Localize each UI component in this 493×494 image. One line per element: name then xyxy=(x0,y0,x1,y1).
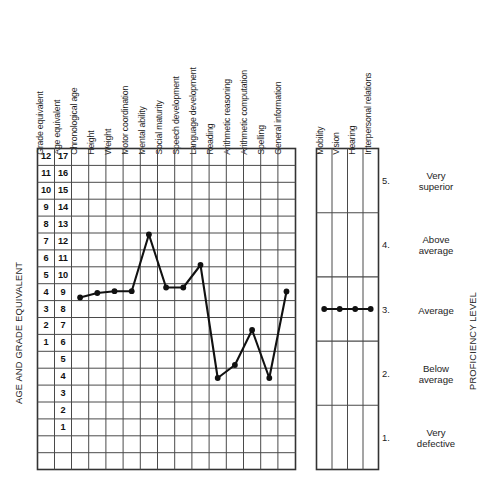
proficiency-level-label: Below average xyxy=(397,363,475,386)
proficiency-level-line2: defective xyxy=(417,438,455,449)
proficiency-level-line2: average xyxy=(419,245,454,256)
proficiency-level-line2: average xyxy=(419,374,454,385)
proficiency-level-number: 4. xyxy=(382,240,390,249)
proficiency-level-line1: Very xyxy=(426,427,445,438)
proficiency-level-number: 2. xyxy=(382,369,390,378)
proficiency-level-line1: Average xyxy=(418,305,454,316)
proficiency-level-label: Very superior xyxy=(397,170,475,193)
proficiency-level-label: Above average xyxy=(397,234,475,257)
proficiency-level-number: 5. xyxy=(382,176,390,185)
proficiency-level-label: Very defective xyxy=(397,427,475,450)
proficiency-level-number: 3. xyxy=(382,305,390,314)
proficiency-level-line1: Very xyxy=(426,170,445,181)
proficiency-level-number: 1. xyxy=(382,433,390,442)
psychoeducational-profile-chart: AGE AND GRADE EQUIVALENT PROFICIENCY LEV… xyxy=(0,0,493,494)
proficiency-level-label: Average xyxy=(397,305,475,316)
proficiency-level-line1: Above xyxy=(422,234,449,245)
proficiency-level-line2: superior xyxy=(419,181,454,192)
proficiency-level-line1: Below xyxy=(423,363,449,374)
